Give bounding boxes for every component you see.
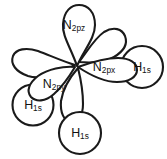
n-2py-label-subscript: 2py — [52, 83, 66, 93]
n-2pz-label-subscript: 2pz — [72, 24, 85, 34]
n-2px-label-subscript: 2px — [102, 66, 116, 76]
n-2px-label-element: N — [93, 60, 102, 74]
h-1s-left-label-subscript: 1s — [33, 104, 42, 114]
n-2py-label-element: N — [43, 77, 52, 91]
h-1s-right-label-element: H — [133, 60, 142, 74]
h-1s-left-label-element: H — [24, 98, 33, 112]
h-1s-right-label-subscript: 1s — [142, 66, 151, 76]
orbital-diagram-figure: N2pz N2px N2py H1s H1s H1s — [0, 0, 167, 159]
h-1s-bottom-label-subscript: 1s — [80, 132, 89, 142]
orbital-diagram-canvas: N2pz N2px N2py H1s H1s H1s — [0, 0, 167, 159]
h-1s-bottom-label-element: H — [71, 126, 80, 140]
n-2pz-label-element: N — [63, 18, 72, 32]
